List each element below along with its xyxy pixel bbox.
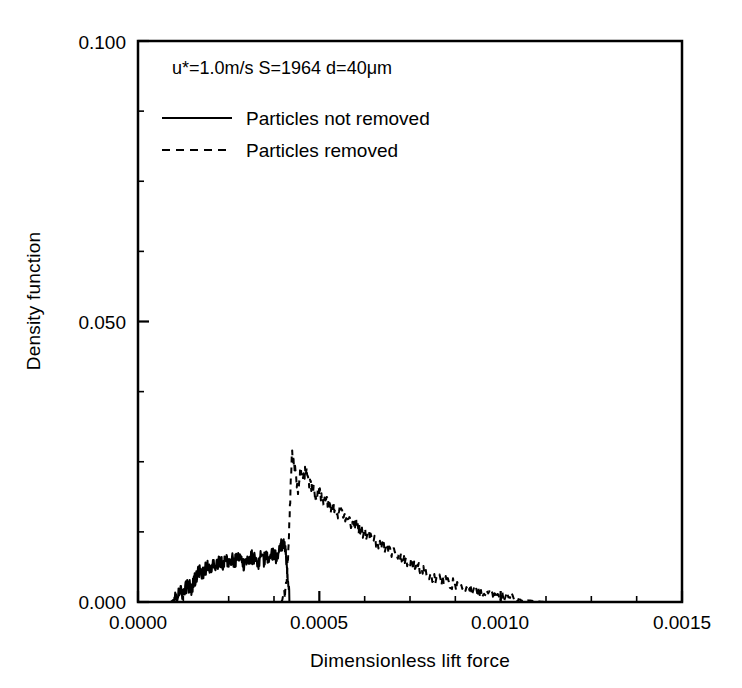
chart-figure: Density function Dimensionless lift forc… [0,0,742,688]
plot-area [0,0,742,688]
data-series-group [171,450,545,602]
axis-ticks [138,41,682,602]
axis-frame [138,41,682,602]
series-line-0 [171,539,290,602]
series-line-1 [281,450,544,602]
legend-line-samples [162,118,232,150]
